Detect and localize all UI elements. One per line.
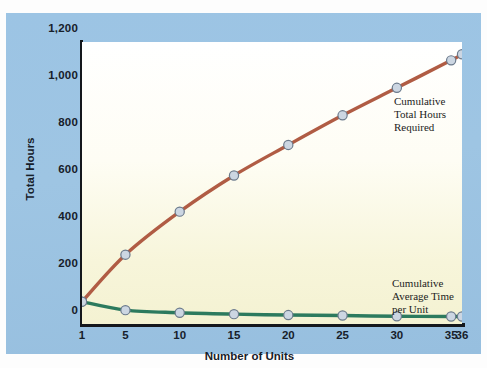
data-point-marker xyxy=(229,310,238,319)
data-point-marker xyxy=(457,50,462,59)
series-line xyxy=(82,54,462,301)
data-point-marker xyxy=(284,140,293,149)
y-axis-tick-labels: 02004006008001,0001,200 xyxy=(24,13,78,354)
y-tick-label: 800 xyxy=(30,116,78,128)
x-tick-label: 25 xyxy=(336,329,349,341)
y-tick-label: 1,200 xyxy=(30,22,78,34)
data-point-marker xyxy=(338,311,347,320)
annotation-line: Cumulative xyxy=(392,277,454,290)
data-point-marker xyxy=(457,312,462,321)
data-point-marker xyxy=(121,250,130,259)
y-tick-label: 1,000 xyxy=(30,69,78,81)
y-tick-label: 200 xyxy=(30,257,78,269)
annotation-line: Required xyxy=(394,121,446,134)
annotation-total-hours: CumulativeTotal HoursRequired xyxy=(394,95,446,134)
data-point-marker xyxy=(175,308,184,317)
data-point-marker xyxy=(229,171,238,180)
x-tick-label: 1 xyxy=(79,329,85,341)
y-tick-label: 400 xyxy=(30,210,78,222)
annotation-line: Total Hours xyxy=(394,108,446,121)
annotation-line: per Unit xyxy=(392,303,454,316)
data-point-marker xyxy=(82,297,87,306)
x-tick-label: 30 xyxy=(390,329,403,341)
data-point-marker xyxy=(447,56,456,65)
data-point-marker xyxy=(338,111,347,120)
data-point-marker xyxy=(284,310,293,319)
chart-panel: Total Hours 02004006008001,0001,200 1510… xyxy=(6,13,481,354)
annotation-average-time: CumulativeAverage Timeper Unit xyxy=(392,277,454,316)
y-tick-label: 0 xyxy=(30,304,78,316)
x-axis-tick-labels: 1510152025303536 xyxy=(82,329,467,347)
data-point-marker xyxy=(175,207,184,216)
annotation-line: Average Time xyxy=(392,290,454,303)
annotation-line: Cumulative xyxy=(394,95,446,108)
x-tick-label: 15 xyxy=(228,329,241,341)
data-point-marker xyxy=(121,306,130,315)
y-tick-label: 600 xyxy=(30,163,78,175)
x-tick-label: 10 xyxy=(173,329,186,341)
x-tick-label: 36 xyxy=(456,329,469,341)
x-tick-label: 5 xyxy=(122,329,128,341)
chart-figure: Total Hours 02004006008001,0001,200 1510… xyxy=(0,0,487,368)
data-point-marker xyxy=(392,83,401,92)
x-axis-title: Number of Units xyxy=(6,350,487,362)
x-tick-label: 20 xyxy=(282,329,295,341)
